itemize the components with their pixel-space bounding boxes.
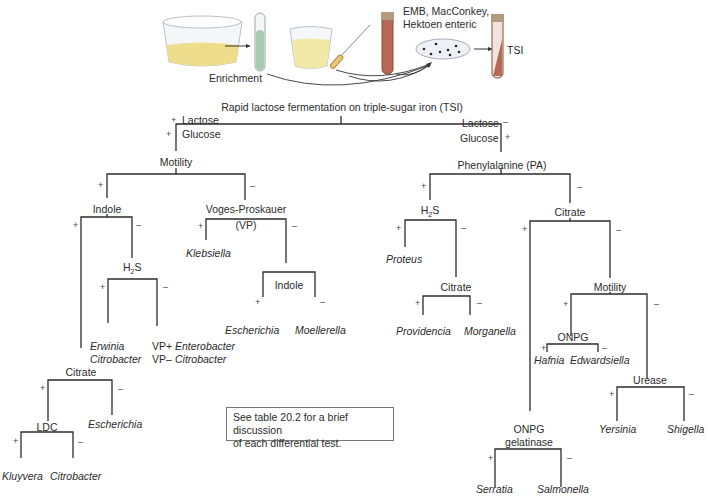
sign-minus: – (292, 221, 297, 231)
sign-plus: + (396, 223, 401, 233)
flowchart-diagram: Enrichment EMB, MacConkey, Hektoen enter… (0, 0, 708, 499)
organism-escherichia: Escherichia (225, 324, 279, 336)
sign-plus: + (421, 181, 426, 191)
left-lactose-label: Lactose (182, 114, 219, 126)
h2s-test: H2S (123, 261, 142, 278)
sign-minus: – (461, 223, 466, 233)
sign-minus: – (118, 384, 123, 394)
right-glucose-label: Glucose (460, 132, 499, 144)
sign-plus: + (488, 453, 493, 463)
specimen-cup-2-icon (290, 27, 332, 69)
sign-minus: – (477, 298, 482, 308)
citrate-test-left: Citrate (66, 366, 97, 378)
organism-yersinia: Yersinia (599, 423, 636, 435)
sign-plus: + (98, 180, 103, 190)
sign-minus: – (136, 220, 141, 230)
sign-minus: – (616, 225, 621, 235)
tsi-tube-icon (491, 14, 504, 78)
root-test-title: Rapid lactose fermentation on triple-sug… (221, 101, 463, 113)
organism-moellerella: Moellerella (295, 324, 346, 336)
culture-tube-icon (381, 12, 394, 74)
note-box: See table 20.2 for a brief discussion of… (226, 407, 394, 441)
h2s-test-right: H2S (421, 204, 440, 221)
sign-minus: – (567, 453, 572, 463)
petri-dish-icon (416, 39, 470, 59)
sign-minus: – (602, 343, 607, 353)
sign-plus: + (255, 297, 260, 307)
sign-minus: – (577, 182, 582, 192)
sign-plus: + (100, 282, 105, 292)
sign-minus: – (78, 437, 83, 447)
organism-proteus: Proteus (386, 253, 422, 265)
sign-plus: + (563, 299, 568, 309)
sign-plus: + (415, 298, 420, 308)
sign-plus: + (505, 132, 510, 142)
sign-minus: – (689, 389, 694, 399)
sign-plus: + (522, 224, 527, 234)
sign-plus: + (40, 383, 45, 393)
organism-hafnia: Hafnia (534, 354, 564, 366)
vp-test: Voges-Proskauer (206, 203, 287, 215)
sign-plus: + (171, 115, 176, 125)
enrichment-label: Enrichment (209, 72, 262, 84)
citrate-test-right: Citrate (555, 206, 586, 218)
note-line2: of each differential test. (233, 437, 393, 450)
organism-citrobacter: Citrobacter (50, 470, 101, 482)
sign-plus: + (166, 129, 171, 139)
media-label-line1: EMB, MacConkey, (403, 5, 489, 17)
specimen-cup-icon (163, 16, 242, 66)
media-label-line2: Hektoen enteric (403, 18, 477, 30)
organism-erwinia: Erwinia (90, 340, 124, 352)
organism-edwardsiella: Edwardsiella (570, 354, 630, 366)
organism-citrobacter: Citrobacter (90, 353, 141, 365)
organism-kluyvera: Kluyvera (2, 470, 43, 482)
organism-escherichia: Escherichia (88, 418, 142, 430)
vp-minus-label: VP– (152, 353, 172, 365)
motility-test-right: Motility (594, 281, 627, 293)
organism-salmonella: Salmonella (537, 483, 589, 495)
onpg-gelatinase-test-line2: gelatinase (505, 436, 553, 448)
ldc-test: LDC (36, 421, 57, 433)
enrichment-tube-icon (255, 13, 265, 71)
curved-arrows (267, 64, 430, 85)
note-line1: See table 20.2 for a brief discussion (233, 411, 393, 437)
sign-minus: – (250, 181, 255, 191)
organism-citrobacter: Citrobacter (175, 353, 226, 365)
sign-plus: + (73, 220, 78, 230)
sign-plus: + (609, 389, 614, 399)
indole-test: Indole (93, 203, 122, 215)
urease-test: Urease (633, 374, 667, 386)
organism-morganella: Morganella (464, 325, 516, 337)
phenylalanine-test: Phenylalanine (PA) (457, 159, 546, 171)
indole-test-2: Indole (275, 279, 304, 291)
sign-minus: – (503, 117, 508, 127)
citrate-test-pa: Citrate (441, 281, 472, 293)
sign-plus: + (13, 436, 18, 446)
sign-plus: + (198, 221, 203, 231)
organism-enterobacter: Enterobacter (175, 340, 235, 352)
organism-klebsiella: Klebsiella (186, 247, 231, 259)
onpg-gelatinase-test: ONPG (514, 423, 545, 435)
sign-minus: – (654, 299, 659, 309)
sign-minus: – (163, 282, 168, 292)
organism-providencia: Providencia (396, 325, 451, 337)
right-lactose-label: Lactose (462, 117, 499, 129)
organism-serratia: Serratia (476, 483, 513, 495)
left-glucose-label: Glucose (182, 128, 221, 140)
sign-minus: – (320, 297, 325, 307)
onpg-test: ONPG (558, 331, 589, 343)
motility-test: Motility (160, 156, 193, 168)
sign-plus: + (541, 343, 546, 353)
vp-plus-label: VP+ (152, 340, 172, 352)
vp-test-abbrev: (VP) (236, 219, 257, 231)
organism-shigella: Shigella (667, 423, 704, 435)
tsi-label: TSI (507, 44, 523, 56)
swab-icon (329, 25, 370, 69)
